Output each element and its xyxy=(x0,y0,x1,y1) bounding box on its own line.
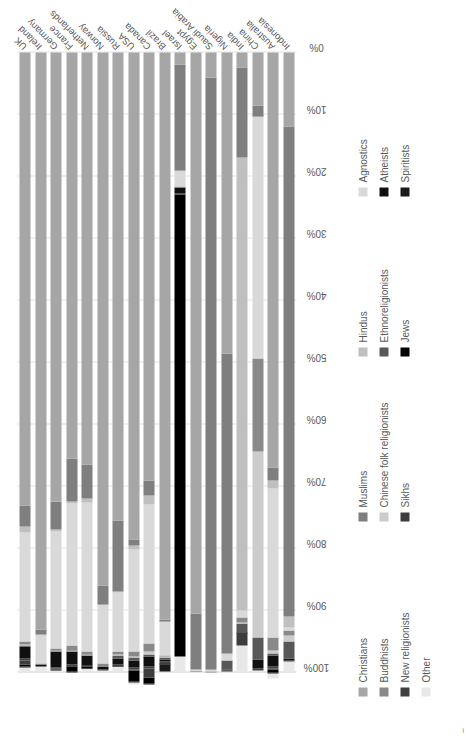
legend-column: ChristiansBuddhistsNew religionistsOther xyxy=(356,612,440,696)
percent-axis-labels: 0%10%20%30%40%50%60%70%80%90%100% xyxy=(300,52,340,672)
legend-item[interactable]: Atheists xyxy=(377,139,390,196)
chart-page: UKIrelandGermanyFranceNetherlandsNorwayR… xyxy=(0,0,467,736)
legend-label: Ethnoreligionists xyxy=(378,269,389,342)
legend-item[interactable]: Agnostics xyxy=(356,139,369,196)
percent-tick-label: 40% xyxy=(306,289,326,300)
legend-swatch-icon xyxy=(379,687,388,696)
legend-label: Chinese folk religionists xyxy=(378,402,389,507)
percent-tick-label: 10% xyxy=(306,103,326,114)
legend-label: Hindus xyxy=(357,311,368,342)
legend-column: HindusEthnoreligionistsJews xyxy=(356,269,419,356)
legend-label: Spiritists xyxy=(399,144,410,182)
legend-swatch-icon xyxy=(379,187,388,196)
rotated-figure: UKIrelandGermanyFranceNetherlandsNorwayR… xyxy=(0,0,467,736)
percent-tick-label: 70% xyxy=(306,475,326,486)
legend-label: Agnostics xyxy=(357,139,368,182)
legend-item[interactable]: Jews xyxy=(398,269,411,356)
legend-item[interactable]: New religionists xyxy=(398,612,411,696)
legend-label: Atheists xyxy=(378,146,389,182)
legend-label: Buddhists xyxy=(378,638,389,682)
bar-segment[interactable] xyxy=(267,673,278,679)
legend-swatch-icon xyxy=(379,512,388,521)
corner-mark: i xyxy=(462,727,464,734)
legend-item[interactable]: Ethnoreligionists xyxy=(377,269,390,356)
legend-label: Other xyxy=(420,657,431,682)
legend-label: New religionists xyxy=(399,612,410,682)
legend-swatch-icon xyxy=(421,687,430,696)
percent-tick-label: 60% xyxy=(306,413,326,424)
legend-label: Christians xyxy=(357,638,368,682)
legend-label: Sikhs xyxy=(399,483,410,507)
bar-segment[interactable] xyxy=(143,677,154,683)
percent-tick-label: 90% xyxy=(306,599,326,610)
legend-swatch-icon xyxy=(358,512,367,521)
legend-swatch-icon xyxy=(358,687,367,696)
legend-swatch-icon xyxy=(400,687,409,696)
legend-item[interactable]: Other xyxy=(419,612,432,696)
percent-tick-label: 50% xyxy=(306,351,326,362)
legend-item[interactable]: Hindus xyxy=(356,269,369,356)
percent-tick-label: 80% xyxy=(306,537,326,548)
chart-legend: ChristiansBuddhistsNew religionistsOther… xyxy=(356,36,446,696)
legend-label: Jews xyxy=(399,319,410,342)
legend-swatch-icon xyxy=(400,347,409,356)
legend-item[interactable]: Sikhs xyxy=(398,402,411,521)
legend-column: MuslimsChinese folk religionistsSikhs xyxy=(356,402,419,521)
percent-tick-label: 0% xyxy=(309,41,323,52)
percent-tick-label: 100% xyxy=(303,661,329,672)
legend-item[interactable]: Chinese folk religionists xyxy=(377,402,390,521)
legend-swatch-icon xyxy=(358,347,367,356)
legend-column: AgnosticsAtheistsSpiritists xyxy=(356,139,419,196)
legend-label: Muslims xyxy=(357,470,368,507)
legend-item[interactable]: Muslims xyxy=(356,402,369,521)
legend-swatch-icon xyxy=(400,512,409,521)
legend-item[interactable]: Buddhists xyxy=(377,612,390,696)
category-axis-labels: UKIrelandGermanyFranceNetherlandsNorwayR… xyxy=(17,52,296,672)
percent-tick-label: 30% xyxy=(306,227,326,238)
legend-swatch-icon xyxy=(400,187,409,196)
legend-item[interactable]: Christians xyxy=(356,612,369,696)
percent-tick-label: 20% xyxy=(306,165,326,176)
legend-swatch-icon xyxy=(379,347,388,356)
legend-swatch-icon xyxy=(358,187,367,196)
legend-item[interactable]: Spiritists xyxy=(398,139,411,196)
